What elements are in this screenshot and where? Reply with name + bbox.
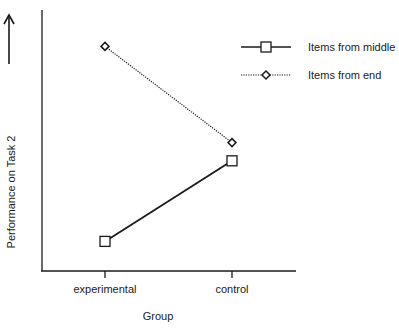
legend: Items from middle Items from end <box>241 41 395 81</box>
legend-item-end: Items from end <box>241 69 381 81</box>
x-tick-label: experimental <box>74 283 137 295</box>
series-end <box>101 42 236 146</box>
y-arrow <box>4 15 14 64</box>
legend-label-end: Items from end <box>308 69 381 81</box>
chart: Performance on Task 2 experimentalcontro… <box>0 0 399 329</box>
legend-marker-square <box>261 42 271 52</box>
legend-label-middle: Items from middle <box>308 41 395 53</box>
y-axis-label: Performance on Task 2 <box>5 136 17 249</box>
data-point-diamond <box>101 42 109 50</box>
x-axis-label: Group <box>143 310 174 322</box>
data-point-diamond <box>228 139 236 147</box>
data-point-square <box>100 236 110 246</box>
series-line <box>105 46 232 142</box>
legend-item-middle: Items from middle <box>241 41 395 53</box>
series-line <box>105 161 232 242</box>
legend-marker-diamond <box>262 71 270 79</box>
data-point-square <box>227 156 237 166</box>
series-middle <box>100 156 237 247</box>
x-tick-label: control <box>215 283 248 295</box>
